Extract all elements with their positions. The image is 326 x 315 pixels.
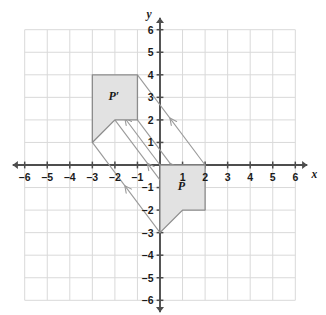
y-axis-tick-label: –4 bbox=[142, 249, 154, 261]
x-axis-tick-label: –2 bbox=[109, 171, 121, 183]
y-axis-tick-label: –1 bbox=[142, 181, 154, 193]
x-axis-tick-label: 6 bbox=[292, 171, 298, 183]
y-axis-tick-label: 2 bbox=[148, 114, 154, 126]
y-axis-tick-label: 4 bbox=[148, 69, 154, 81]
shape-label-P-prime: P′ bbox=[108, 89, 119, 103]
x-axis-tick-label: 2 bbox=[202, 171, 208, 183]
x-axis-tick-label: –3 bbox=[87, 171, 99, 183]
x-axis-tick-label: 3 bbox=[225, 171, 231, 183]
y-axis-tick-label: –2 bbox=[142, 204, 154, 216]
figure-background bbox=[0, 0, 326, 315]
x-axis-tick-label: –4 bbox=[64, 171, 76, 183]
y-axis-tick-label: –5 bbox=[142, 272, 154, 284]
y-axis-tick-label: 6 bbox=[148, 24, 154, 36]
y-axis-tick-label: 3 bbox=[148, 91, 154, 103]
y-axis-tick-label: –6 bbox=[142, 294, 154, 306]
x-axis-tick-label: –5 bbox=[41, 171, 53, 183]
x-axis-name: x bbox=[310, 168, 317, 180]
y-axis-tick-label: –3 bbox=[142, 227, 154, 239]
coordinate-plane-figure: –6–5–4–3–2–1123456–6–5–4–3–2–1123456xyPP… bbox=[0, 0, 326, 315]
x-axis-tick-label: 4 bbox=[247, 171, 253, 183]
shape-label-P: P bbox=[178, 179, 186, 193]
y-axis-name: y bbox=[144, 8, 152, 21]
x-axis-tick-label: –6 bbox=[19, 171, 31, 183]
x-axis-tick-label: 5 bbox=[270, 171, 276, 183]
y-axis-tick-label: 5 bbox=[148, 46, 154, 58]
y-axis-tick-label: 1 bbox=[148, 136, 154, 148]
